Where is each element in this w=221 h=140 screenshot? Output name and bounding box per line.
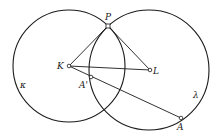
point-P	[106, 24, 110, 28]
circle-label-kappa: κ	[19, 80, 26, 90]
circles-group	[13, 10, 209, 130]
point-label-P: P	[104, 12, 112, 22]
segment-P-L	[108, 26, 150, 70]
point-A_prime	[89, 75, 93, 79]
point-A	[179, 116, 183, 120]
point-label-A: A	[176, 122, 184, 132]
point-L	[148, 68, 152, 72]
circle-label-lambda: λ	[192, 90, 199, 100]
segment-K-L	[69, 66, 150, 70]
segment-K-P	[69, 26, 108, 66]
point-label-K: K	[56, 61, 65, 71]
point-label-L: L	[152, 66, 159, 76]
point-K	[67, 64, 71, 68]
geometry-diagram: κλPKLA'A	[0, 0, 221, 140]
point-label-A_prime: A'	[78, 80, 88, 90]
